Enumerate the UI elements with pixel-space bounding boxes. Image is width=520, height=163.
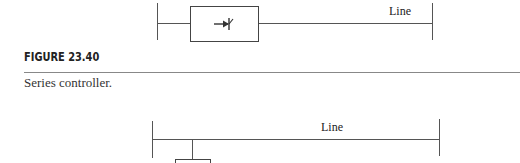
figure-number: FIGURE 23.40 xyxy=(24,50,99,64)
line-label: Line xyxy=(321,120,343,135)
shunt-branch xyxy=(192,139,193,160)
series-controller-box xyxy=(190,6,259,42)
right-bus-bar xyxy=(439,119,440,156)
figure-caption: Series controller. xyxy=(24,75,112,91)
line-left-segment xyxy=(157,23,191,24)
caption-rule xyxy=(24,72,520,73)
line-label: Line xyxy=(389,4,411,19)
line-horizontal xyxy=(152,139,440,140)
thyristor-arrow-icon xyxy=(190,6,259,42)
left-bus-bar xyxy=(157,3,158,40)
right-bus-bar xyxy=(432,3,433,40)
line-right-segment xyxy=(259,23,432,24)
shunt-controller-box xyxy=(175,159,211,163)
